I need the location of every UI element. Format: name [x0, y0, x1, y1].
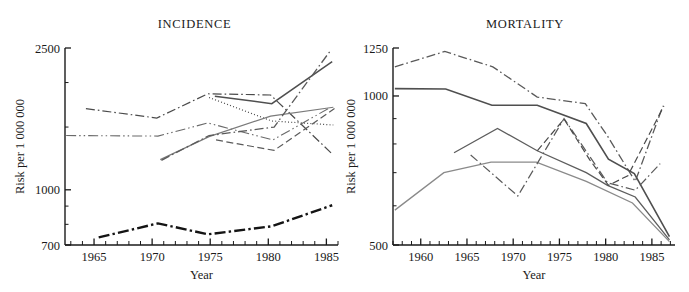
series-line-series-3: [209, 98, 333, 125]
panel-incidence: INCIDENCE 250010007001965197019751980198…: [0, 0, 345, 292]
x-tick-label: 1980: [256, 250, 281, 264]
figure-two-panel-line-charts: INCIDENCE 250010007001965197019751980198…: [0, 0, 689, 292]
y-tick-label: 2500: [35, 42, 60, 56]
x-tick-label: 1980: [593, 250, 618, 264]
y-tick-label: 1000: [363, 89, 388, 103]
series-line-series-1: [86, 94, 331, 153]
y-tick-label: 1000: [35, 183, 60, 197]
y-axis-title: Risk per 1 000 000: [13, 99, 27, 194]
x-tick-label: 1965: [82, 250, 107, 264]
y-tick-label: 700: [41, 239, 60, 253]
y-tick-label: 1250: [363, 42, 388, 56]
series-line-series-2: [66, 108, 330, 140]
series-line-series-3: [454, 128, 669, 240]
series-line-series-4: [215, 62, 332, 104]
x-tick-label: 1970: [501, 250, 526, 264]
x-tick-label: 1965: [454, 250, 479, 264]
series-line-series-4: [395, 162, 670, 241]
x-tick-label: 1985: [314, 250, 339, 264]
series-line-series-6: [161, 50, 331, 160]
x-tick-label: 1960: [408, 250, 433, 264]
x-axis-title: Year: [190, 268, 214, 282]
incidence-plot: 2500100070019651970197519801985YearRisk …: [0, 0, 345, 292]
mortality-plot: 12501000500196019651970197519801985YearR…: [345, 0, 689, 292]
y-tick-label: 500: [369, 239, 388, 253]
panel-mortality: MORTALITY 125010005001960196519701975198…: [345, 0, 689, 292]
y-axis-title: Risk per 1 000 000: [344, 99, 358, 194]
series-line-series-8: [99, 205, 333, 237]
x-axis-title: Year: [522, 268, 546, 282]
x-tick-label: 1975: [547, 250, 572, 264]
x-tick-label: 1975: [198, 250, 223, 264]
x-tick-label: 1970: [140, 250, 165, 264]
x-tick-label: 1985: [639, 250, 664, 264]
series-line-series-5: [471, 119, 661, 196]
